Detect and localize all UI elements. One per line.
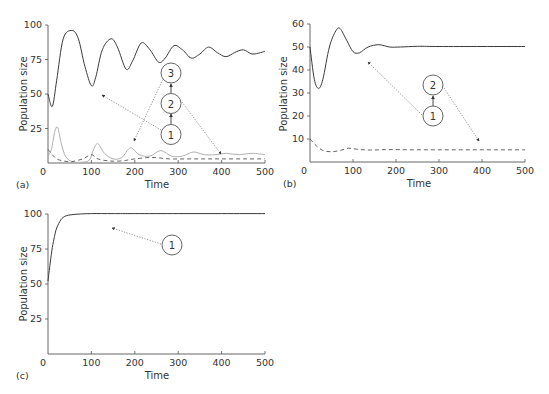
- x-tick-label: 200: [126, 357, 144, 368]
- panel-b: 10 20 30 40 50 60 0 100 200 300 400 500: [278, 18, 534, 189]
- panel-c-y-axis-title: Population size: [18, 246, 29, 321]
- panel-c-x-axis-title: Time: [144, 370, 169, 381]
- panel-b-y-axis-title: Population size: [278, 56, 289, 131]
- x-tick-label: 0: [301, 165, 307, 176]
- panel-a-series: [48, 31, 265, 163]
- x-tick-label: 400: [213, 166, 231, 177]
- y-tick-label: 100: [24, 19, 42, 30]
- x-tick-label: 100: [344, 165, 362, 176]
- food-web-population-figure: 25 50 75 100 0 100 200 300 400 500 Time …: [0, 0, 549, 394]
- pointer-arrow: [112, 228, 161, 244]
- pointer-arrow: [134, 77, 164, 141]
- panel-c: 25 50 75 100 0 100 200 300 400 500 Time …: [16, 208, 274, 381]
- panel-c-food-web: 1: [112, 228, 182, 255]
- y-tick-label: 50: [292, 41, 304, 52]
- panel-a-series-2-line: [48, 127, 265, 163]
- panel-a-label: (a): [16, 179, 29, 190]
- x-tick-label: 300: [169, 357, 187, 368]
- y-tick-label: 75: [30, 54, 42, 65]
- x-tick-label: 500: [256, 357, 274, 368]
- panel-a-series-1-line: [48, 31, 265, 107]
- y-tick-label: 40: [292, 64, 304, 75]
- x-tick-label: 500: [516, 165, 534, 176]
- x-tick-label: 100: [82, 166, 100, 177]
- y-tick-label: 75: [30, 243, 42, 254]
- panel-a-x-axis-title: Time: [144, 179, 169, 190]
- pointer-arrow: [368, 62, 422, 115]
- x-tick-label: 200: [126, 166, 144, 177]
- node-label-3: 3: [168, 68, 174, 79]
- panel-b-series-1-line: [310, 28, 525, 89]
- node-label-2: 2: [430, 80, 436, 91]
- x-tick-label: 200: [387, 165, 405, 176]
- pointer-arrow: [444, 88, 479, 141]
- panel-b-axis-lines: [310, 24, 525, 162]
- panel-b-food-web: 2 1: [368, 62, 479, 141]
- node-label-2: 2: [168, 99, 174, 110]
- y-tick-label: 50: [30, 88, 42, 99]
- panel-b-axes: 10 20 30 40 50 60 0 100 200 300 400 500: [278, 18, 534, 189]
- x-tick-label: 300: [169, 166, 187, 177]
- x-tick-label: 500: [256, 166, 274, 177]
- y-tick-label: 30: [292, 87, 304, 98]
- panel-a-series-3-line: [48, 149, 265, 162]
- y-tick-label: 10: [292, 133, 304, 144]
- x-tick-label: 100: [82, 357, 100, 368]
- panel-b-x-axis-title: Time: [406, 178, 431, 189]
- y-tick-label: 25: [30, 123, 42, 134]
- y-tick-label: 50: [30, 278, 42, 289]
- node-label-1: 1: [168, 130, 174, 141]
- x-tick-label: 400: [213, 357, 231, 368]
- y-tick-label: 100: [24, 208, 42, 219]
- pointer-arrow: [182, 102, 221, 154]
- panel-b-series: [310, 28, 525, 152]
- pointer-arrow: [102, 95, 161, 130]
- node-label-1: 1: [430, 111, 436, 122]
- y-tick-label: 60: [292, 18, 304, 29]
- x-tick-label: 400: [473, 165, 491, 176]
- panel-c-series: [48, 214, 265, 282]
- panel-c-axis-lines: [48, 214, 265, 354]
- panel-c-label: (c): [16, 370, 29, 381]
- x-tick-label: 0: [40, 166, 46, 177]
- panel-a: 25 50 75 100 0 100 200 300 400 500 Time …: [16, 19, 274, 190]
- panel-b-label: (b): [283, 178, 296, 189]
- panel-a-food-web: 3 2 1: [102, 63, 221, 154]
- panel-a-y-axis-title: Population size: [18, 56, 29, 131]
- panel-b-series-2-line: [310, 139, 525, 152]
- y-tick-label: 25: [30, 313, 42, 324]
- x-tick-label: 0: [40, 357, 46, 368]
- panel-c-series-1-line: [48, 214, 265, 282]
- panel-b-y-ticks: 10 20 30 40 50 60: [292, 18, 310, 144]
- x-tick-label: 300: [430, 165, 448, 176]
- y-tick-label: 20: [292, 110, 304, 121]
- node-label-1: 1: [169, 240, 175, 251]
